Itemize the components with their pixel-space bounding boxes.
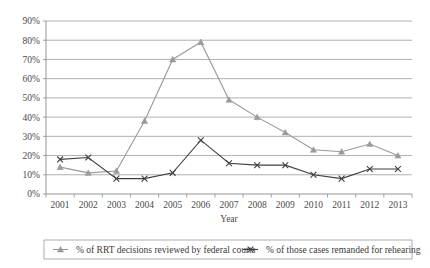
y-tick-label: 70%: [23, 55, 41, 65]
x-tick-label: 2013: [388, 200, 407, 210]
series-line: [60, 42, 398, 173]
data-point-marker: [282, 129, 288, 135]
x-axis-tick-labels: 2001200220032004200520062007200820092010…: [51, 200, 408, 210]
y-tick-label: 60%: [23, 74, 41, 84]
legend-item[interactable]: % of RRT decisions reviewed by federal c…: [53, 245, 256, 255]
data-point-marker: [367, 141, 373, 147]
y-tick-label: 40%: [23, 113, 41, 123]
x-tick-label: 2012: [360, 200, 379, 210]
x-tick-label: 2001: [51, 200, 70, 210]
y-axis-tick-labels: 0%10%20%30%40%50%60%70%80%90%: [23, 16, 41, 199]
x-tick-label: 2004: [135, 200, 154, 210]
series-line: [60, 140, 398, 178]
y-tick-label: 20%: [23, 151, 41, 161]
chart-container: 0%10%20%30%40%50%60%70%80%90% 2001200220…: [0, 0, 430, 268]
chart-legend: % of RRT decisions reviewed by federal c…: [44, 240, 421, 259]
x-axis-title: Year: [220, 214, 238, 224]
x-axis: [46, 194, 412, 198]
x-tick-label: 2009: [276, 200, 295, 210]
x-tick-label: 2011: [332, 200, 351, 210]
y-tick-label: 0%: [27, 189, 40, 199]
legend-item[interactable]: % of those cases remanded for rehearing: [243, 245, 421, 255]
x-tick-label: 2006: [191, 200, 210, 210]
data-point-marker: [141, 118, 147, 124]
x-tick-label: 2003: [107, 200, 126, 210]
x-tick-label: 2008: [248, 200, 267, 210]
y-tick-label: 30%: [23, 132, 41, 142]
x-tick-label: 2002: [79, 200, 98, 210]
y-tick-label: 50%: [23, 93, 41, 103]
x-tick-label: 2007: [220, 200, 239, 210]
x-tick-label: 2005: [163, 200, 182, 210]
data-point-marker: [198, 137, 204, 143]
x-tick-label: 2010: [304, 200, 323, 210]
line-chart: 0%10%20%30%40%50%60%70%80%90% 2001200220…: [0, 0, 430, 268]
legend-label: % of those cases remanded for rehearing: [266, 245, 421, 255]
y-tick-label: 10%: [23, 170, 41, 180]
y-axis: [43, 21, 46, 194]
data-series: [57, 39, 401, 181]
data-point-marker: [57, 164, 63, 170]
y-tick-label: 80%: [23, 36, 41, 46]
legend-label: % of RRT decisions reviewed by federal c…: [76, 245, 256, 255]
y-tick-label: 90%: [23, 16, 41, 26]
